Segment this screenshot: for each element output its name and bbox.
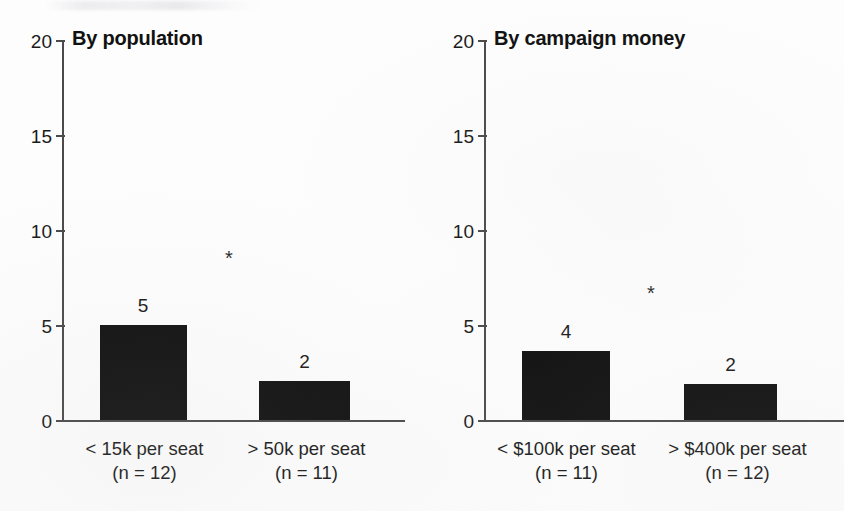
bar-value-population-under-15k: 5 xyxy=(103,296,183,315)
y-tick-label-5-left: 5 xyxy=(18,317,52,336)
bar-value-population-over-50k: 2 xyxy=(262,352,347,371)
significance-asterisk-money: * xyxy=(641,283,661,303)
category-label-money-under-100k: < $100k per seat (n = 11) xyxy=(474,437,659,486)
y-tick-label-20-right: 20 xyxy=(428,32,474,51)
y-tick-mark-0-right xyxy=(478,420,487,422)
y-tick-label-15-right: 15 xyxy=(428,127,474,146)
y-tick-label-5-right: 5 xyxy=(440,317,474,336)
y-tick-mark-15-right xyxy=(478,135,487,137)
y-tick-label-20-left: 20 xyxy=(6,32,52,51)
panel-title-by-population: By population xyxy=(72,28,203,48)
category-label-money-over-400k: > $400k per seat (n = 12) xyxy=(645,437,830,486)
y-tick-mark-10-right xyxy=(478,230,487,232)
bar-money-under-100k xyxy=(522,351,610,420)
panel-title-by-campaign-money: By campaign money xyxy=(494,28,685,48)
y-tick-label-0-left: 0 xyxy=(18,412,52,431)
category-label-n: (n = 11) xyxy=(474,461,659,485)
significance-asterisk-population: * xyxy=(219,248,239,268)
bar-value-money-over-400k: 2 xyxy=(687,355,774,374)
y-tick-mark-10-left xyxy=(56,230,65,232)
y-tick-label-10-right: 10 xyxy=(428,222,474,241)
bar-population-under-15k xyxy=(100,325,187,420)
bar-money-over-400k xyxy=(684,384,777,420)
category-label-population-under-15k: < 15k per seat (n = 12) xyxy=(62,437,227,486)
category-label-text: < $100k per seat xyxy=(497,438,635,459)
two-panel-bar-chart-figure: By population 0 5 10 15 20 5 2 * < 15k p… xyxy=(0,0,844,511)
x-axis-line-right xyxy=(484,420,844,422)
category-label-n: (n = 12) xyxy=(62,461,227,485)
chart-panel-by-campaign-money: By campaign money 0 5 10 15 20 4 2 * < $… xyxy=(422,0,844,511)
category-label-n: (n = 11) xyxy=(224,461,389,485)
category-label-population-over-50k: > 50k per seat (n = 11) xyxy=(224,437,389,486)
y-tick-mark-5-left xyxy=(56,325,65,327)
y-tick-mark-15-left xyxy=(56,135,65,137)
y-tick-label-10-left: 10 xyxy=(6,222,52,241)
category-label-text: > $400k per seat xyxy=(668,438,806,459)
category-label-text: > 50k per seat xyxy=(248,438,366,459)
y-tick-mark-0-left xyxy=(56,420,65,422)
y-tick-label-15-left: 15 xyxy=(6,127,52,146)
bar-population-over-50k xyxy=(259,381,350,420)
chart-panel-by-population: By population 0 5 10 15 20 5 2 * < 15k p… xyxy=(0,0,422,511)
y-tick-mark-20-right xyxy=(478,40,487,42)
y-tick-mark-5-right xyxy=(478,325,487,327)
x-axis-line-left xyxy=(62,420,405,422)
category-label-n: (n = 12) xyxy=(645,461,830,485)
category-label-text: < 15k per seat xyxy=(86,438,204,459)
y-tick-label-0-right: 0 xyxy=(440,412,474,431)
bar-value-money-under-100k: 4 xyxy=(525,322,607,341)
y-tick-mark-20-left xyxy=(56,40,65,42)
